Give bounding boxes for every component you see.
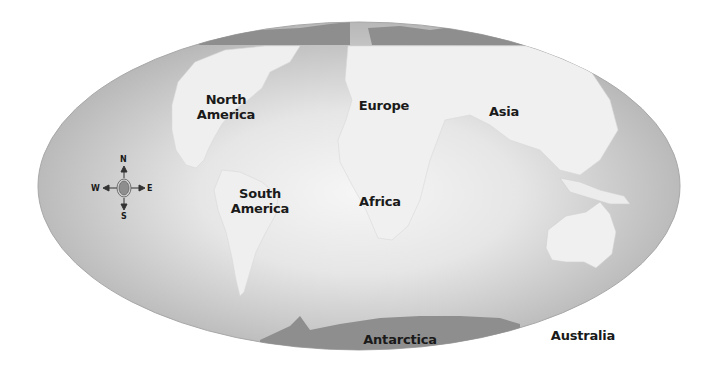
label-line: America xyxy=(224,201,296,216)
compass-west-label: W xyxy=(91,184,100,193)
label-line: America xyxy=(190,107,262,122)
label-australia: Australia xyxy=(548,328,618,343)
label-antarctica: Antarctica xyxy=(360,332,440,347)
label-line: South xyxy=(224,186,296,201)
label-line: North xyxy=(190,92,262,107)
label-africa: Africa xyxy=(352,194,408,209)
label-asia: Asia xyxy=(484,104,524,119)
label-north-america: North America xyxy=(190,92,262,122)
arctic-landmass-east xyxy=(368,26,560,45)
compass-south-label: S xyxy=(121,212,127,221)
label-south-america: South America xyxy=(224,186,296,216)
compass-east-label: E xyxy=(147,184,152,193)
compass-north-label: N xyxy=(120,155,127,164)
label-europe: Europe xyxy=(354,98,414,113)
arctic-landmass xyxy=(190,22,350,45)
